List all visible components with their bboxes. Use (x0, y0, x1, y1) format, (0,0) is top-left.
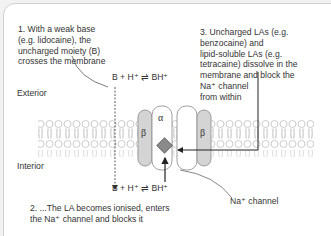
step2-label: 2. ...The LA becomes ionised, enters the… (30, 203, 170, 225)
alpha-label: α (158, 113, 163, 124)
equation-interior: B + H⁺ ⇌ BH⁺ (112, 183, 168, 193)
beta-left-label: β (141, 128, 146, 139)
exterior-label: Exterior (17, 88, 47, 99)
interior-label: Interior (17, 161, 44, 172)
alpha-subunit-right (177, 106, 197, 170)
beta-right-label: β (200, 128, 205, 139)
lipid-bilayer (38, 113, 314, 157)
leader-na-channel (180, 170, 232, 198)
step1-label: 1. With a weak base (e.g. lidocaine), th… (18, 24, 105, 67)
equation-exterior: B + H⁺ ⇌ BH⁺ (112, 72, 168, 82)
na-channel-label: Na⁺ channel (230, 196, 278, 207)
step3-label: 3. Uncharged LAs (e.g. benzocaine) and l… (200, 27, 297, 103)
